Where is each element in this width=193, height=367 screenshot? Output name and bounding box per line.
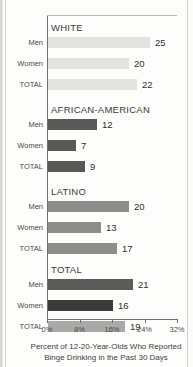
x-tick (80, 319, 81, 323)
caption-line-2: Binge Drinking in the Past 30 Days (23, 352, 189, 363)
chart-figure: WHITEMen25Women20TOTAL22AFRICAN-AMERICAN… (0, 0, 193, 367)
bar-row-label: Women (9, 58, 43, 69)
bar-row-label: TOTAL (9, 321, 43, 332)
x-tick (112, 319, 113, 323)
x-tick-label: 8% (74, 325, 85, 334)
bar (48, 119, 97, 130)
group-title-white: WHITE (51, 22, 83, 33)
x-tick-label: 32% (169, 325, 184, 334)
bar-row-label: Women (9, 222, 43, 233)
bar-value-label: 22 (142, 79, 153, 90)
x-tick (177, 319, 178, 323)
bar-row-label: Men (9, 119, 43, 130)
bar (48, 201, 129, 212)
bar (48, 279, 133, 290)
bar-value-label: 7 (81, 140, 86, 151)
bar (48, 161, 85, 172)
x-tick-label: 16% (104, 325, 119, 334)
page-edge-left-line (5, 0, 6, 367)
bar (48, 79, 137, 90)
bar-value-label: 20 (134, 201, 145, 212)
bar (48, 140, 76, 151)
bar-value-label: 21 (138, 279, 149, 290)
bar-value-label: 17 (122, 243, 133, 254)
bar-row-label: TOTAL (9, 243, 43, 254)
group-title-latino: LATINO (51, 186, 86, 197)
bar-row-label: Men (9, 37, 43, 48)
page-edge-right-line (187, 0, 188, 367)
bar-row-label: Women (9, 140, 43, 151)
bar-value-label: 9 (90, 161, 95, 172)
bar-value-label: 25 (155, 37, 166, 48)
bar-value-label: 12 (102, 119, 113, 130)
bar-row-label: Men (9, 279, 43, 290)
x-tick-label: 24% (137, 325, 152, 334)
x-tick-label: 0% (42, 325, 53, 334)
bar-value-label: 13 (106, 222, 117, 233)
bar-row-label: TOTAL (9, 161, 43, 172)
bar (48, 222, 101, 233)
group-title-african-american: AFRICAN-AMERICAN (51, 104, 150, 115)
bar-value-label: 20 (134, 58, 145, 69)
chart-caption: Percent of 12-20-Year-Olds Who Reported … (23, 341, 189, 363)
group-title-total: TOTAL (51, 264, 82, 275)
page-edge-right (189, 0, 193, 367)
x-tick (145, 319, 146, 323)
bar-row-label: TOTAL (9, 79, 43, 90)
bar-value-label: 16 (118, 300, 129, 311)
caption-line-1: Percent of 12-20-Year-Olds Who Reported (23, 341, 189, 352)
x-tick (47, 319, 48, 323)
page-edge-left (0, 0, 3, 367)
bar-row-label: Men (9, 201, 43, 212)
bar (48, 37, 150, 48)
bar-row-label: Women (9, 300, 43, 311)
bar (48, 58, 129, 69)
plot-area: WHITEMen25Women20TOTAL22AFRICAN-AMERICAN… (9, 0, 185, 367)
top-rule (47, 15, 177, 16)
bar (48, 300, 113, 311)
bar (48, 243, 117, 254)
